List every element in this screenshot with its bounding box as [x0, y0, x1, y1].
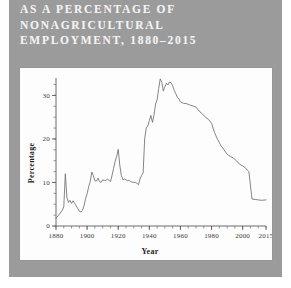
title-line-1: AS A PERCENTAGE OF: [20, 2, 270, 18]
x-tick-label: 1960: [173, 232, 188, 240]
title-line-2: NONAGRICULTURAL: [20, 18, 270, 34]
screenshot-root: AS A PERCENTAGE OF NONAGRICULTURAL EMPLO…: [0, 0, 291, 288]
series-line: [56, 79, 266, 218]
x-tick-label: 1920: [111, 232, 126, 240]
y-tick-label: 0: [46, 222, 50, 230]
chart-axes: [56, 78, 266, 226]
y-tick-label: 10: [43, 179, 51, 187]
page-title: AS A PERCENTAGE OF NONAGRICULTURAL EMPLO…: [20, 2, 270, 49]
x-tick-label: 2015: [259, 232, 272, 240]
y-axis-title: Percentage: [27, 143, 36, 184]
chart-panel: 188019001920194019601980200020150102030 …: [20, 68, 272, 260]
x-tick-label: 1900: [80, 232, 95, 240]
chart-series: [56, 79, 266, 218]
chart-ticks: [52, 85, 266, 230]
line-chart: 188019001920194019601980200020150102030 …: [20, 68, 272, 260]
y-tick-label: 20: [43, 135, 51, 143]
x-tick-label: 2000: [235, 232, 250, 240]
y-tick-label: 30: [43, 92, 51, 100]
title-line-3: EMPLOYMENT, 1880–2015: [20, 33, 270, 49]
chart-tick-labels: 188019001920194019601980200020150102030: [43, 92, 272, 240]
x-tick-label: 1880: [49, 232, 64, 240]
x-tick-label: 1980: [204, 232, 219, 240]
x-axis-title: Year: [141, 247, 158, 256]
x-tick-label: 1940: [142, 232, 157, 240]
